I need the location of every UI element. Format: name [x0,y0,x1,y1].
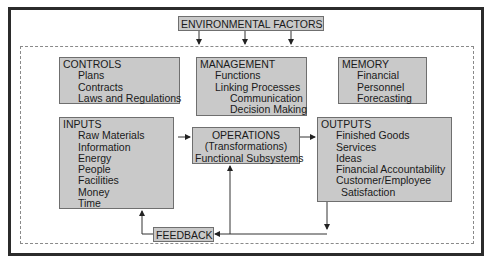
memory-box: MEMORY Financial Personnel Forecasting [338,57,427,104]
operations-subtitle: (Transformations) [195,141,297,152]
environmental-factors-label: ENVIRONMENTAL FACTORS [181,18,321,30]
operations-box: OPERATIONS (Transformations) Functional … [192,127,300,164]
outputs-item-continuation: Satisfaction [321,187,448,198]
management-subitem: Decision Making [200,104,303,115]
controls-item: Plans [63,70,176,81]
inputs-item: Time [63,198,170,209]
management-box: MANAGEMENT Functions Linking Processes C… [196,57,307,116]
outputs-box: OUTPUTS Finished Goods Services Ideas Fi… [317,117,452,202]
management-item: Functions [200,70,303,81]
inputs-item: Raw Materials [63,130,170,141]
environmental-factors-box: ENVIRONMENTAL FACTORS [178,16,324,31]
memory-item: Financial [342,70,423,81]
operations-subsystems: Functional Subsystems [195,153,297,164]
outputs-item: Finished Goods [321,130,448,141]
controls-item: Laws and Regulations [63,93,176,104]
feedback-label: FEEDBACK [156,229,211,241]
memory-item: Forecasting [342,93,423,104]
feedback-box: FEEDBACK [153,227,214,242]
controls-box: CONTROLS Plans Contracts Laws and Regula… [59,57,180,104]
inputs-box: INPUTS Raw Materials Information Energy … [59,117,174,209]
